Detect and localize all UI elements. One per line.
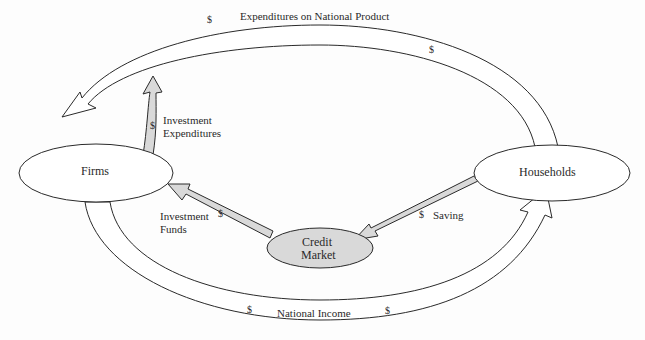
investment-funds-label-line1: Investment: [160, 210, 209, 222]
expenditures-dollar-left: $: [207, 14, 212, 25]
circular-flow-diagram: Firms Households Credit Market $ Expendi…: [0, 0, 645, 340]
investment-expenditures-label-line2: Expenditures: [163, 127, 221, 139]
national-income-dollar-left: $: [247, 304, 252, 315]
saving-dollar: $: [419, 209, 424, 220]
expenditures-dollar-right: $: [429, 44, 434, 55]
saving-label: Saving: [433, 209, 464, 221]
households-label: Households: [519, 166, 576, 179]
saving-arrow: [354, 176, 478, 240]
investment-funds-label-line2: Funds: [160, 223, 187, 235]
investment-funds-dollar: $: [218, 208, 223, 219]
investment-expenditures-arrow: [143, 76, 162, 155]
expenditures-flow-arrow: [62, 25, 558, 147]
national-income-label: National Income: [277, 307, 351, 319]
firms-label: Firms: [81, 165, 109, 178]
national-income-dollar-right: $: [385, 305, 390, 316]
investment-expenditures-label-line1: Investment: [163, 114, 212, 126]
investment-expenditures-dollar: $: [150, 120, 155, 131]
credit-market-label-line2: Market: [301, 249, 336, 262]
expenditures-label: Expenditures on National Product: [240, 10, 389, 22]
